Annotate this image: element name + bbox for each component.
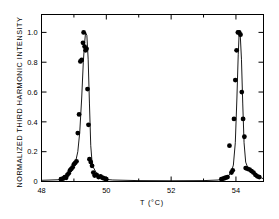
x-axis-tick-labels: 48505254 [37, 186, 240, 195]
x-tick-label: 52 [167, 186, 175, 195]
x-axis-title: T (°C) [41, 198, 263, 207]
y-axis-tick-labels: 00.20.40.60.81.0 [27, 28, 37, 186]
data-point [90, 163, 95, 168]
data-point [230, 168, 235, 173]
data-point [75, 131, 80, 136]
data-point [225, 175, 230, 180]
data-point [74, 159, 79, 164]
data-point [227, 143, 232, 148]
data-point [242, 134, 247, 139]
data-point [84, 46, 89, 51]
y-tick-label: 0.6 [27, 88, 37, 97]
data-point [77, 112, 82, 117]
data-point [85, 87, 90, 92]
data-point [79, 58, 84, 63]
data-point [241, 116, 246, 121]
fit-curve [42, 32, 264, 180]
y-tick-label: 0.2 [27, 147, 37, 156]
y-axis-title: NORMALIZED THIRD HARMONIC INTENSITY [15, 18, 24, 188]
data-point [104, 177, 109, 182]
third-harmonic-intensity-chart: 48505254 00.20.40.60.81.0 [0, 0, 279, 219]
y-tick-label: 0 [33, 177, 37, 186]
x-tick-label: 48 [37, 186, 45, 195]
data-point [239, 90, 244, 95]
data-point [81, 30, 86, 35]
data-point [233, 78, 238, 83]
plot-frame [42, 15, 264, 182]
fit-curve-path [42, 32, 264, 180]
data-point [86, 122, 91, 127]
y-tick-label: 1.0 [27, 28, 37, 37]
data-point [232, 116, 237, 121]
y-axis-ticks [42, 32, 264, 181]
data-point [257, 175, 262, 180]
y-tick-label: 0.4 [27, 118, 37, 127]
x-axis-ticks [42, 15, 236, 182]
y-tick-label: 0.8 [27, 58, 37, 67]
data-point [234, 48, 239, 53]
x-tick-label: 50 [102, 186, 110, 195]
x-tick-label: 54 [232, 186, 240, 195]
data-points [59, 30, 262, 182]
data-point [238, 32, 243, 37]
figure-container: 48505254 00.20.40.60.81.0 NORMALIZED THI… [0, 0, 279, 219]
